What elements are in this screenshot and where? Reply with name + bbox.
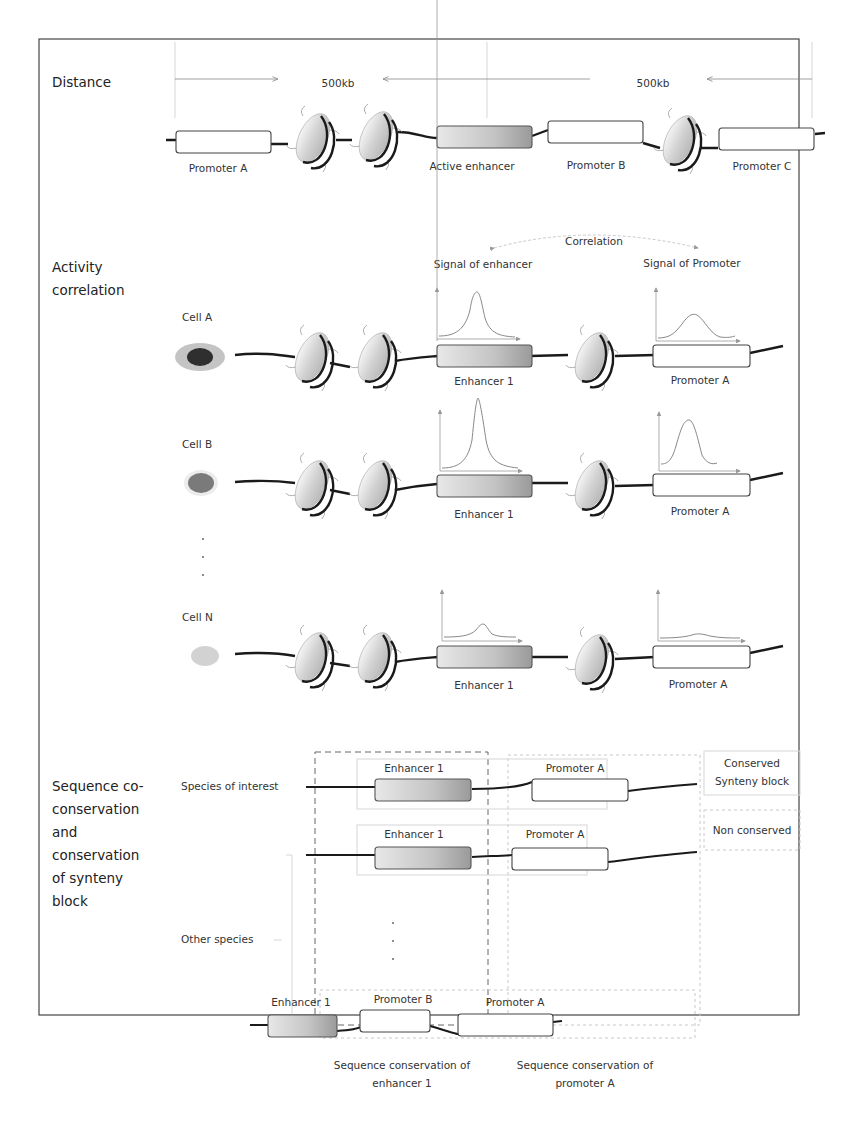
- promoter-box: [532, 779, 628, 801]
- svg-text:of synteny: of synteny: [52, 870, 123, 886]
- footer-promoter-line1: Sequence conservation of: [517, 1059, 654, 1071]
- promoter-label: Promoter A: [671, 505, 731, 517]
- legend-conserved-line1: Conserved: [724, 757, 780, 769]
- sequence-panel: Sequence co- conservation and conservati…: [52, 751, 800, 1089]
- species-row-other: Enhancer 1 Promoter B Promoter A: [250, 990, 695, 1038]
- promoter-b-box: [548, 121, 643, 143]
- other-species-label: Other species: [181, 933, 253, 945]
- species-ellipsis: [392, 922, 394, 960]
- promoter-signal-curve: [658, 314, 735, 338]
- enhancer-signal-curve: [444, 624, 516, 637]
- promoter-box: [458, 1014, 553, 1036]
- section-title-sequence: Sequence co- conservation and conservati…: [52, 778, 144, 909]
- correlation-label: Correlation: [565, 235, 623, 247]
- promoter-b-label: Promoter B: [567, 159, 626, 171]
- promoter-signal-curve: [661, 420, 717, 464]
- promoter-box: [512, 848, 608, 870]
- svg-text:conservation: conservation: [52, 847, 139, 863]
- enhancer-box: [375, 847, 471, 869]
- svg-text:Sequence co-: Sequence co-: [52, 778, 144, 794]
- svg-text:conservation: conservation: [52, 801, 139, 817]
- figure-canvas: Distance 500kb 500kb Promoter A Active e…: [0, 0, 860, 1127]
- promoter-signal-curve: [660, 634, 740, 638]
- species-of-interest-label: Species of interest: [181, 780, 279, 792]
- promoter-box: [653, 345, 750, 367]
- cell-n-nucleus: [191, 646, 219, 666]
- promoter-a-label: Promoter A: [189, 162, 249, 174]
- promoter-label: Promoter A: [546, 762, 606, 774]
- cell-b-label: Cell B: [182, 438, 212, 450]
- cell-n-label: Cell N: [182, 611, 213, 623]
- species-row-interest: Enhancer 1 Promoter A: [306, 759, 697, 809]
- legend-non-conserved: Non conserved: [713, 824, 792, 836]
- signal-enhancer-label: Signal of enhancer: [434, 258, 533, 270]
- active-enhancer-label: Active enhancer: [429, 160, 515, 172]
- species-row-2: Enhancer 1 Promoter A: [306, 825, 697, 875]
- enhancer-box: [375, 779, 471, 801]
- section-title-distance: Distance: [52, 74, 111, 90]
- promoter-b-label: Promoter B: [374, 993, 433, 1005]
- cell-b-nucleus: [188, 473, 214, 493]
- enhancer-label: Enhancer 1: [454, 375, 514, 387]
- promoter-box: [653, 474, 750, 496]
- signal-promoter-label: Signal of Promoter: [643, 257, 741, 269]
- section-title-activity-1: Activity: [52, 259, 103, 275]
- enhancer-label: Enhancer 1: [384, 828, 444, 840]
- footer-promoter-line2: promoter A: [555, 1077, 615, 1089]
- activity-panel: Activity correlation Correlation Signal …: [52, 0, 783, 693]
- distance-label-left: 500kb: [322, 77, 355, 89]
- enhancer-label: Enhancer 1: [384, 762, 444, 774]
- cell-a-nucleus: [187, 348, 213, 366]
- enhancer-label: Enhancer 1: [271, 996, 331, 1008]
- svg-text:block: block: [52, 893, 88, 909]
- cell-a-label: Cell A: [182, 311, 213, 323]
- promoter-c-box: [719, 128, 814, 150]
- promoter-b-box: [360, 1010, 430, 1032]
- promoter-box: [653, 646, 750, 668]
- footer-enhancer-line2: enhancer 1: [372, 1077, 431, 1089]
- cell-row-n: Cell N Enhancer 1 Promoter A: [182, 590, 783, 693]
- cell-row-a: Cell A Enhancer 1 Promoter A: [175, 0, 783, 391]
- svg-text:and: and: [52, 824, 77, 840]
- enhancer-label: Enhancer 1: [454, 679, 514, 691]
- promoter-c-label: Promoter C: [733, 160, 792, 172]
- promoter-label: Promoter A: [526, 828, 586, 840]
- promoter-label: Promoter A: [671, 374, 731, 386]
- enhancer-box: [437, 345, 532, 367]
- promoter-label: Promoter A: [486, 996, 546, 1008]
- enhancer-box: [437, 646, 532, 668]
- distance-label-right: 500kb: [637, 77, 670, 89]
- cell-row-b: Cell B Enhancer 1 Promoter A: [182, 398, 783, 520]
- section-title-activity-2: correlation: [52, 282, 124, 298]
- cell-ellipsis: [202, 538, 204, 576]
- enhancer-box: [437, 475, 532, 497]
- enhancer-box: [268, 1015, 337, 1037]
- distance-panel: Distance 500kb 500kb Promoter A Active e…: [52, 42, 825, 174]
- legend: Conserved Synteny block Non conserved: [704, 751, 800, 850]
- active-enhancer-box: [437, 126, 532, 148]
- enhancer-label: Enhancer 1: [454, 508, 514, 520]
- footer-enhancer-line1: Sequence conservation of: [334, 1059, 471, 1071]
- legend-conserved-line2: Synteny block: [715, 775, 790, 787]
- enhancer-signal-curve: [442, 398, 518, 468]
- enhancer-signal-curve: [439, 292, 515, 337]
- promoter-label: Promoter A: [669, 678, 729, 690]
- promoter-a-box: [176, 131, 271, 153]
